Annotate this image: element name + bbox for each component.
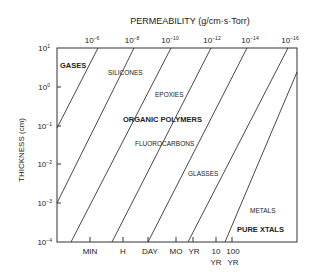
- bottom-axis-tick-marks: [90, 237, 232, 242]
- region-label-fluorocarbons: FLUOROCARBONS: [135, 140, 195, 147]
- top-tick-label: 10−6: [85, 35, 100, 45]
- bottom-label-100-yr: YR: [227, 258, 238, 267]
- chart-title: PERMEABILITY (g/cm·s·Torr): [130, 16, 249, 26]
- line-extra: [225, 72, 297, 242]
- region-labels: GASES SILICONES EPOXIES ORGANIC POLYMERS…: [60, 61, 284, 234]
- top-tick-label: 10−8: [125, 35, 140, 45]
- permeability-chart: PERMEABILITY (g/cm·s·Torr) 10−6 10−8 10−…: [0, 0, 314, 279]
- y-tick-label: 10−2: [37, 159, 52, 169]
- y-tick-label: 10−3: [37, 198, 52, 208]
- region-label-glasses: GLASSES: [188, 170, 219, 177]
- region-label-gases: GASES: [60, 61, 86, 70]
- region-label-organic-polymers: ORGANIC POLYMERS: [123, 115, 202, 124]
- line-1e-6: [57, 48, 98, 128]
- y-tick-label: 100: [38, 82, 50, 92]
- bottom-label-100: 100: [226, 247, 240, 256]
- bottom-axis-labels: MIN H DAY MO YR 10 100 YR YR: [83, 247, 241, 267]
- region-label-silicones: SILICONES: [108, 69, 143, 76]
- y-tick-label: 101: [38, 43, 50, 53]
- top-tick-label: 10−14: [241, 35, 259, 45]
- region-label-epoxies: EPOXIES: [155, 91, 184, 98]
- top-tick-label: 10−16: [281, 35, 299, 45]
- region-label-metals: METALS: [250, 207, 276, 214]
- bottom-label-10: 10: [212, 247, 221, 256]
- bottom-label-hour: H: [120, 247, 126, 256]
- bottom-label-month: MO: [170, 247, 183, 256]
- y-axis-ticks: 101 100 10−1 10−2 10−3 10−4: [37, 43, 52, 247]
- y-tick-label: 10−1: [37, 121, 52, 131]
- y-axis-tick-marks: [57, 87, 61, 203]
- bottom-label-day: DAY: [142, 247, 159, 256]
- y-axis-label: THICKNESS (cm): [17, 118, 26, 182]
- top-tick-label: 10−12: [203, 35, 221, 45]
- bottom-label-year: YR: [188, 247, 199, 256]
- top-tick-label: 10−10: [161, 35, 179, 45]
- top-axis-ticks: 10−6 10−8 10−10 10−12 10−14 10−16: [85, 35, 299, 45]
- region-label-pure-xtals: PURE XTALS: [237, 225, 284, 234]
- y-tick-label: 10−4: [37, 237, 52, 247]
- bottom-label-10-yr: YR: [210, 258, 221, 267]
- bottom-label-min: MIN: [83, 247, 98, 256]
